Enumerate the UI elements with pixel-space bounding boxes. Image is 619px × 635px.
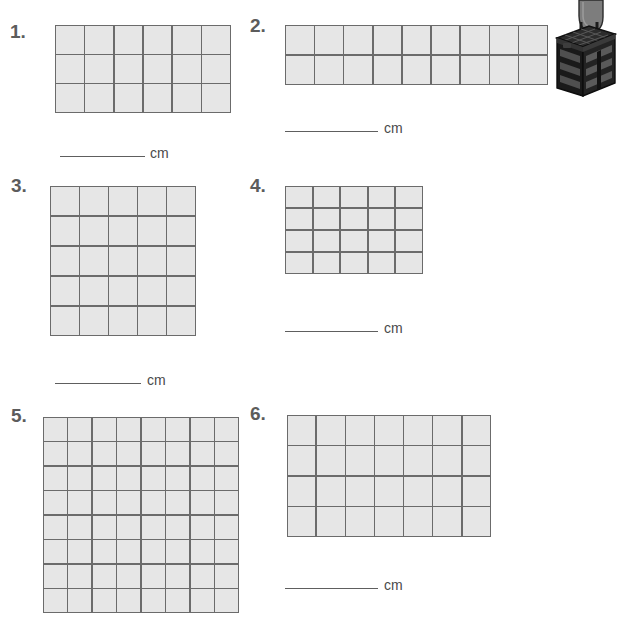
grid-cell (173, 84, 201, 112)
grid-cell (115, 55, 143, 83)
grid-cell (85, 84, 113, 112)
grid-cell (490, 26, 518, 54)
problem-6-grid (287, 415, 491, 537)
grid-cell (166, 516, 189, 539)
grid-cell (117, 540, 140, 563)
problem-6-answer-line[interactable] (285, 588, 378, 589)
grid-cell (138, 187, 166, 215)
grid-cell (344, 56, 372, 84)
grid-cell (191, 516, 214, 539)
worksheet-page: 1. cm 2. cm 3. cm 4. cm 5. (0, 0, 619, 635)
grid-cell (44, 467, 67, 490)
problem-1-answer-line[interactable] (60, 156, 145, 157)
grid-cell (286, 253, 312, 273)
grid-cell (433, 477, 460, 506)
grid-cell (144, 55, 172, 83)
grid-cell (117, 491, 140, 514)
grid-cell (117, 516, 140, 539)
grid-cell (463, 446, 491, 475)
grid-cell (433, 507, 460, 536)
grid-cell (93, 565, 116, 588)
grid-cell (44, 589, 67, 612)
problem-2-grid (285, 25, 548, 85)
grid-cell (191, 589, 214, 612)
grid-cell (314, 231, 340, 251)
grid-cell (288, 507, 315, 536)
grid-cell (346, 477, 374, 506)
grid-cell (215, 491, 238, 514)
grid-cell (404, 477, 432, 506)
grid-cell (166, 589, 189, 612)
grid-cell (375, 507, 402, 536)
grid-cell (44, 516, 67, 539)
grid-cell (288, 416, 315, 445)
grid-cell (215, 540, 238, 563)
grid-cell (202, 55, 230, 83)
grid-cell (44, 565, 67, 588)
grid-cell (44, 418, 67, 441)
grid-cell (109, 187, 137, 215)
grid-cell (396, 231, 422, 251)
problem-5-grid (43, 417, 239, 613)
grid-cell (404, 446, 432, 475)
grid-cell (191, 491, 214, 514)
grid-cell (404, 416, 432, 445)
problem-2-answer-line[interactable] (285, 131, 378, 132)
grid-cell (68, 589, 91, 612)
grid-cell (317, 416, 344, 445)
grid-cell (68, 418, 91, 441)
grid-cell (341, 231, 367, 251)
grid-cell (202, 84, 230, 112)
grid-cell (68, 516, 91, 539)
grid-cell (341, 187, 367, 207)
grid-cell (167, 307, 195, 335)
problem-3-answer-line[interactable] (55, 383, 141, 384)
grid-cell (142, 491, 165, 514)
grid-cell (93, 418, 116, 441)
grid-cell (314, 253, 340, 273)
grid-cell (93, 540, 116, 563)
problem-2-number: 2. (250, 16, 266, 35)
grid-cell (142, 418, 165, 441)
grid-cell (374, 26, 402, 54)
grid-cell (519, 56, 547, 84)
grid-cell (461, 56, 489, 84)
problem-3-grid (50, 186, 196, 336)
grid-cell (215, 565, 238, 588)
grid-cell (166, 418, 189, 441)
grid-cell (142, 516, 165, 539)
grid-cell (432, 56, 460, 84)
grid-cell (142, 540, 165, 563)
grid-cell (396, 253, 422, 273)
grid-cell (68, 491, 91, 514)
problem-4-grid (285, 186, 423, 274)
problem-1-grid (55, 25, 231, 113)
grid-cell (93, 442, 116, 465)
grid-cell (167, 217, 195, 245)
grid-cell (68, 442, 91, 465)
grid-cell (167, 187, 195, 215)
problem-4-answer-line[interactable] (285, 331, 378, 332)
grid-cell (369, 253, 395, 273)
grid-cell (396, 187, 422, 207)
problem-5-number: 5. (11, 406, 27, 425)
grid-cell (346, 507, 374, 536)
grid-cell (142, 565, 165, 588)
grid-cell (93, 589, 116, 612)
problem-1-unit-label: cm (150, 146, 169, 160)
black-crate-icon (545, 0, 619, 105)
grid-cell (433, 446, 460, 475)
grid-cell (288, 446, 315, 475)
grid-cell (166, 491, 189, 514)
grid-cell (463, 477, 491, 506)
grid-cell (215, 589, 238, 612)
grid-cell (85, 26, 113, 54)
grid-cell (519, 26, 547, 54)
grid-cell (167, 247, 195, 275)
grid-cell (369, 231, 395, 251)
grid-cell (215, 467, 238, 490)
grid-cell (433, 416, 460, 445)
grid-cell (51, 277, 79, 305)
grid-cell (317, 507, 344, 536)
grid-cell (191, 442, 214, 465)
